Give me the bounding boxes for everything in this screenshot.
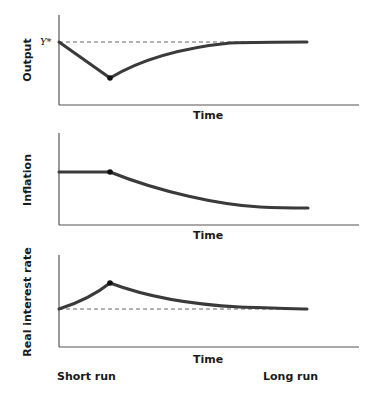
output-x-label: Time: [193, 109, 223, 122]
inflation-curve: [59, 172, 308, 208]
long-run-label: Long run: [263, 370, 318, 383]
output-y-label: Output: [21, 38, 34, 81]
output-panel: Y* Output Time: [21, 15, 359, 122]
figure: Y* Output Time Inflation Time Real inter…: [0, 0, 374, 399]
interest-y-label: Real interest rate: [21, 247, 34, 356]
short-run-label: Short run: [57, 370, 116, 383]
inflation-y-label: Inflation: [21, 154, 34, 206]
output-trough-point: [107, 75, 113, 81]
interest-x-label: Time: [193, 353, 223, 366]
interest-peak-point: [107, 280, 113, 286]
inflation-panel: Inflation Time: [21, 133, 359, 242]
interest-panel: Real interest rate Time: [21, 247, 359, 366]
output-curve: [59, 42, 307, 78]
potential-output-label: Y*: [40, 36, 52, 47]
inflation-x-label: Time: [193, 229, 223, 242]
inflation-marked-point: [107, 169, 113, 175]
interest-curve: [59, 283, 307, 309]
